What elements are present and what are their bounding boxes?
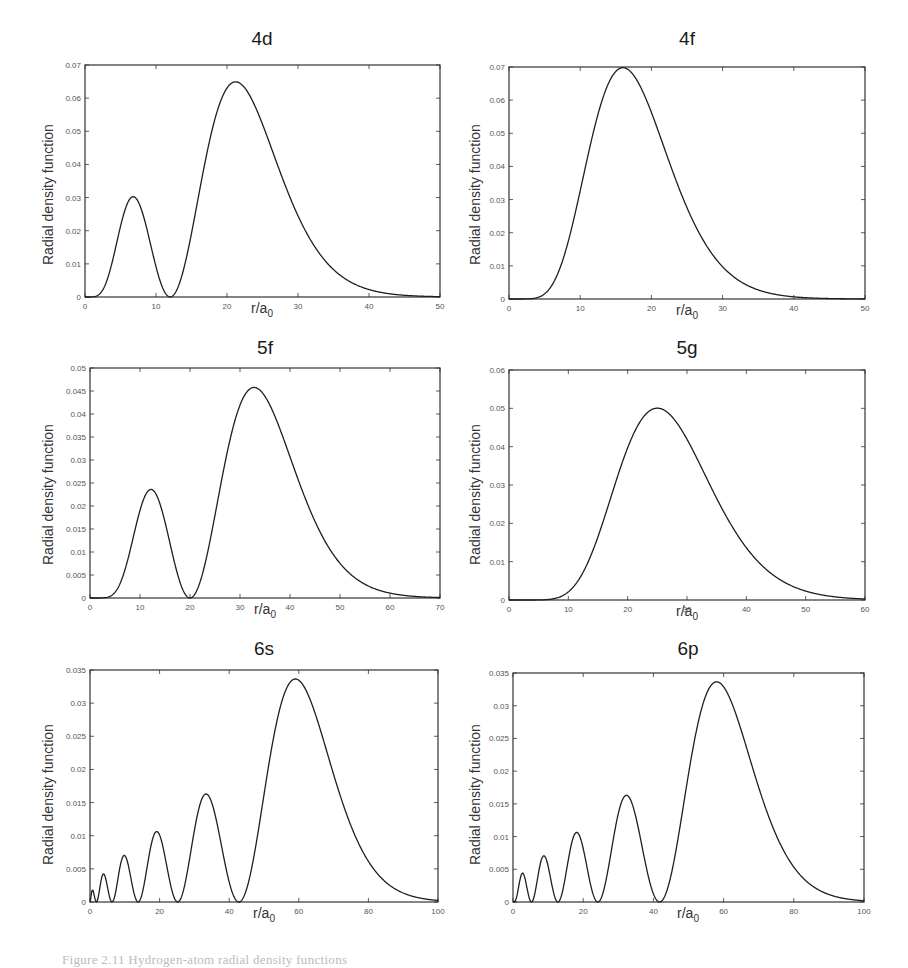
x-tick-label: 60 [719,907,728,916]
x-tick-label: 100 [857,907,871,916]
x-tick-label: 40 [649,907,658,916]
y-tick-label: 0.03 [493,702,509,711]
x-tick-label: 0 [511,907,516,916]
figure-caption: Figure 2.11 Hydrogen-atom radial density… [62,952,347,968]
plot-frame [513,673,864,902]
x-tick-label: 80 [789,907,798,916]
y-tick-label: 0.025 [489,734,510,743]
y-tick-label: 0.005 [489,865,510,874]
y-tick-label: 0.02 [493,767,509,776]
y-tick-label: 0.015 [489,800,510,809]
x-tick-label: 20 [579,907,588,916]
y-tick-label: 0.01 [493,833,509,842]
radial-density-curve-6p [513,682,864,902]
y-tick-label: 0 [505,898,510,907]
y-tick-label: 0.035 [489,669,510,678]
